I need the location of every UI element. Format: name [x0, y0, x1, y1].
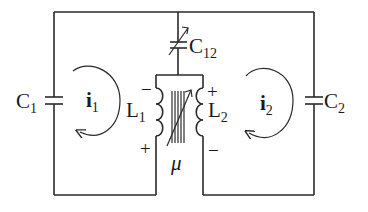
l1-top-sign: − [141, 79, 152, 100]
l1-bottom-sign: + [140, 138, 151, 159]
l2-label: L2 [208, 98, 228, 125]
circuit-diagram: C1 C2 C12 L1 − + L2 + − [0, 0, 368, 212]
l1-label: L1 [126, 98, 146, 125]
capacitor-c1 [45, 12, 63, 195]
l2-top-sign: + [207, 81, 218, 102]
capacitor-c2 [305, 12, 323, 195]
c1-label: C1 [16, 89, 37, 116]
l2-bottom-sign: − [208, 140, 219, 161]
i2-label: i2 [260, 91, 273, 118]
variable-capacitor-c12 [169, 12, 188, 75]
mu-label: μ [170, 151, 182, 175]
i1-label: i1 [86, 88, 99, 115]
variable-core [167, 90, 192, 146]
c12-label: C12 [189, 34, 217, 61]
c2-label: C2 [324, 89, 345, 116]
